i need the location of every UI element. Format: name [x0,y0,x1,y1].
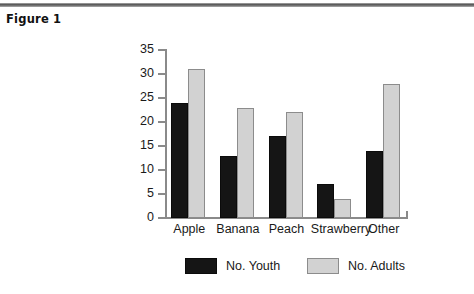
x-axis-label-apple: Apple [165,222,214,236]
y-axis-tick [158,193,165,195]
bar-chart: 05101520253035 AppleBananaPeachStrawberr… [0,0,474,294]
x-axis-label-banana: Banana [214,222,263,236]
x-axis-label-strawberry: Strawberry [311,222,360,236]
bar-peach-no-youth [269,136,286,218]
legend-swatch-icon [185,258,217,274]
y-axis-tick [158,49,165,51]
y-axis-tick-label: 15 [128,138,154,152]
legend-label: No. Youth [226,259,280,273]
legend-label: No. Adults [348,259,405,273]
bar-other-no-youth [366,151,383,218]
bar-peach-no-adults [286,112,303,218]
y-axis-tick [158,121,165,123]
bar-banana-no-adults [237,108,254,218]
chart-legend: No. YouthNo. Adults [165,258,425,280]
legend-item-no-adults[interactable]: No. Adults [307,258,405,274]
y-axis-tick-label: 5 [128,186,154,200]
legend-item-no-youth[interactable]: No. Youth [185,258,280,274]
x-axis-label-peach: Peach [262,222,311,236]
x-axis-label-other: Other [359,222,408,236]
y-axis-tick-label: 0 [128,210,154,224]
y-axis-tick [158,217,165,219]
y-axis-tick [158,169,165,171]
bars-layer [165,50,408,218]
y-axis-tick [158,145,165,147]
bar-strawberry-no-youth [317,184,334,218]
bar-banana-no-youth [220,156,237,218]
y-axis-tick-label: 20 [128,114,154,128]
bar-apple-no-adults [188,69,205,218]
bar-apple-no-youth [171,103,188,218]
y-axis-tick-label: 35 [128,42,154,56]
y-axis-tick [158,73,165,75]
bar-other-no-adults [383,84,400,218]
y-axis-tick-label: 25 [128,90,154,104]
y-axis-tick-label: 10 [128,162,154,176]
y-axis-tick [158,97,165,99]
y-axis-tick-label: 30 [128,66,154,80]
bar-strawberry-no-adults [334,199,351,218]
legend-swatch-icon [307,258,339,274]
